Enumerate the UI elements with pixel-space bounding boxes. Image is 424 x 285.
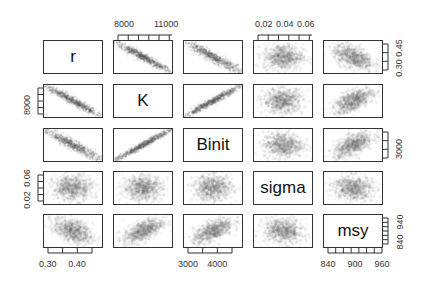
pairs-plot: rKBinitsigmamsy8000110000.020.040.060.30…: [0, 0, 424, 285]
top-tick-label: 0.06: [297, 19, 315, 29]
top-tick-label: 8000: [114, 19, 134, 29]
right-tick-label: 3000: [394, 139, 404, 159]
bottom-tick-label: 0.40: [68, 259, 86, 269]
right-tick-label: 0.45: [394, 39, 404, 57]
bottom-tick-label: 900: [348, 259, 363, 269]
left-tick-label: 0.02: [22, 191, 32, 209]
right-tick-label: 940: [394, 214, 404, 229]
right-tick-label: 840: [394, 234, 404, 249]
top-tick-label: 11000: [154, 19, 178, 29]
top-tick-label: 0.04: [276, 19, 294, 29]
bottom-tick-label: 3000: [178, 259, 198, 269]
left-tick-label: 0.06: [22, 169, 32, 187]
right-tick-label: 0.30: [394, 59, 404, 77]
bottom-tick-label: 4000: [207, 259, 227, 269]
left-tick-label: 8000: [22, 95, 32, 115]
axis-ticks: [0, 0, 424, 285]
bottom-tick-label: 840: [321, 259, 336, 269]
bottom-tick-label: 0.30: [39, 259, 57, 269]
top-tick-label: 0.02: [255, 19, 273, 29]
bottom-tick-label: 960: [375, 259, 390, 269]
